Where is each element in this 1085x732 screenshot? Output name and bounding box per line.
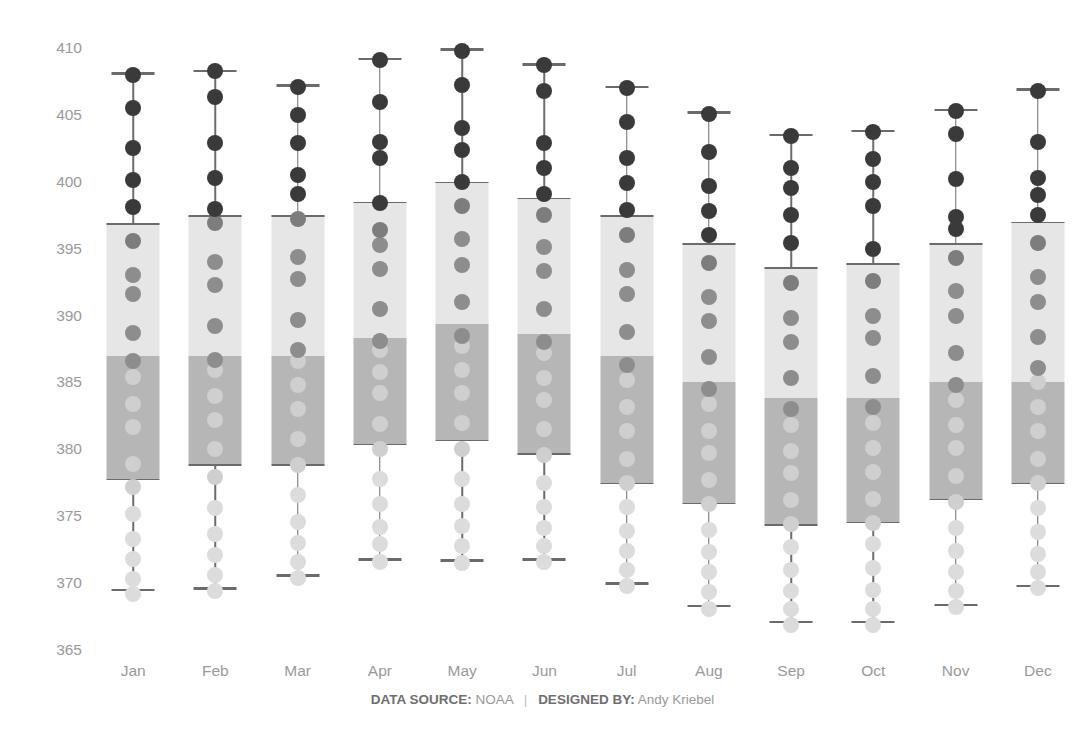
data-point[interactable]	[783, 180, 799, 196]
data-point[interactable]	[1030, 399, 1046, 415]
data-point[interactable]	[536, 239, 552, 255]
data-point[interactable]	[701, 445, 717, 461]
data-point[interactable]	[1030, 235, 1046, 251]
data-point[interactable]	[948, 392, 964, 408]
data-point[interactable]	[865, 415, 881, 431]
box-plot-column-feb[interactable]	[174, 0, 256, 655]
data-point[interactable]	[865, 601, 881, 617]
data-point[interactable]	[125, 172, 141, 188]
data-point[interactable]	[290, 514, 306, 530]
data-point[interactable]	[207, 547, 223, 563]
box-plot-column-jun[interactable]	[503, 0, 585, 655]
data-point[interactable]	[290, 107, 306, 123]
data-point[interactable]	[125, 325, 141, 341]
data-point[interactable]	[207, 201, 223, 217]
data-point[interactable]	[454, 362, 470, 378]
data-point[interactable]	[1030, 187, 1046, 203]
data-point[interactable]	[207, 135, 223, 151]
data-point[interactable]	[865, 308, 881, 324]
data-point[interactable]	[619, 286, 635, 302]
data-point[interactable]	[125, 586, 141, 602]
data-point[interactable]	[290, 342, 306, 358]
data-point[interactable]	[454, 385, 470, 401]
data-point[interactable]	[783, 275, 799, 291]
data-point[interactable]	[1030, 134, 1046, 150]
data-point[interactable]	[536, 160, 552, 176]
box-plot-column-dec[interactable]	[997, 0, 1079, 655]
data-point[interactable]	[372, 134, 388, 150]
data-point[interactable]	[125, 456, 141, 472]
data-point[interactable]	[783, 207, 799, 223]
data-point[interactable]	[372, 385, 388, 401]
data-point[interactable]	[290, 249, 306, 265]
data-point[interactable]	[290, 79, 306, 95]
data-point[interactable]	[783, 128, 799, 144]
data-point[interactable]	[783, 583, 799, 599]
data-point[interactable]	[454, 471, 470, 487]
data-point[interactable]	[1030, 329, 1046, 345]
data-point[interactable]	[948, 468, 964, 484]
data-point[interactable]	[1030, 170, 1046, 186]
data-point[interactable]	[207, 469, 223, 485]
data-point[interactable]	[1030, 374, 1046, 390]
data-point[interactable]	[865, 174, 881, 190]
data-point[interactable]	[948, 417, 964, 433]
data-point[interactable]	[125, 571, 141, 587]
data-point[interactable]	[536, 554, 552, 570]
data-point[interactable]	[207, 254, 223, 270]
data-point[interactable]	[372, 261, 388, 277]
box-plot-column-oct[interactable]	[832, 0, 914, 655]
data-point[interactable]	[1030, 294, 1046, 310]
data-point[interactable]	[372, 441, 388, 457]
data-point[interactable]	[619, 175, 635, 191]
data-point[interactable]	[619, 372, 635, 388]
data-point[interactable]	[701, 396, 717, 412]
data-point[interactable]	[454, 555, 470, 571]
box-plot-column-jan[interactable]	[92, 0, 174, 655]
data-point[interactable]	[948, 564, 964, 580]
data-point[interactable]	[372, 471, 388, 487]
box-plot-column-nov[interactable]	[915, 0, 997, 655]
data-point[interactable]	[207, 412, 223, 428]
data-point[interactable]	[1030, 451, 1046, 467]
data-point[interactable]	[701, 349, 717, 365]
data-point[interactable]	[536, 57, 552, 73]
data-point[interactable]	[207, 388, 223, 404]
data-point[interactable]	[619, 451, 635, 467]
data-point[interactable]	[865, 536, 881, 552]
data-point[interactable]	[701, 381, 717, 397]
data-point[interactable]	[536, 263, 552, 279]
data-point[interactable]	[536, 447, 552, 463]
data-point[interactable]	[207, 170, 223, 186]
data-point[interactable]	[207, 526, 223, 542]
data-point[interactable]	[865, 330, 881, 346]
data-point[interactable]	[454, 174, 470, 190]
data-point[interactable]	[865, 368, 881, 384]
data-point[interactable]	[372, 536, 388, 552]
data-point[interactable]	[948, 440, 964, 456]
data-point[interactable]	[948, 583, 964, 599]
data-point[interactable]	[701, 178, 717, 194]
data-point[interactable]	[1030, 524, 1046, 540]
data-point[interactable]	[207, 567, 223, 583]
data-point[interactable]	[454, 328, 470, 344]
data-point[interactable]	[536, 499, 552, 515]
data-point[interactable]	[865, 560, 881, 576]
data-point[interactable]	[948, 250, 964, 266]
data-point[interactable]	[948, 126, 964, 142]
data-point[interactable]	[290, 487, 306, 503]
data-point[interactable]	[454, 518, 470, 534]
data-point[interactable]	[207, 500, 223, 516]
data-point[interactable]	[125, 100, 141, 116]
data-point[interactable]	[454, 77, 470, 93]
data-point[interactable]	[865, 582, 881, 598]
data-point[interactable]	[619, 475, 635, 491]
data-point[interactable]	[536, 83, 552, 99]
data-point[interactable]	[454, 120, 470, 136]
data-point[interactable]	[619, 227, 635, 243]
data-point[interactable]	[865, 241, 881, 257]
data-point[interactable]	[948, 308, 964, 324]
data-point[interactable]	[372, 301, 388, 317]
data-point[interactable]	[701, 584, 717, 600]
data-point[interactable]	[454, 198, 470, 214]
